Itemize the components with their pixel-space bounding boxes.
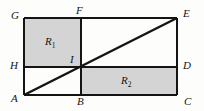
region-label-r2: R2 — [121, 75, 131, 90]
vertex-label-A: A — [11, 93, 18, 104]
region-label-r1: R1 — [45, 36, 55, 51]
vertex-label-B: B — [77, 96, 84, 107]
region-label-r2-base: R — [121, 74, 128, 86]
vertex-label-I: I — [70, 54, 74, 65]
region-label-r2-subscript: 2 — [128, 80, 132, 89]
region-label-r1-subscript: 1 — [52, 41, 56, 50]
vertex-label-F: F — [76, 5, 83, 16]
figure-canvas — [0, 0, 204, 111]
vertex-label-G: G — [11, 10, 19, 21]
geometry-figure: G F E H I D A B C R1 R2 — [0, 0, 204, 111]
vertex-label-C: C — [184, 96, 191, 107]
vertex-label-E: E — [183, 8, 190, 19]
region-label-r1-base: R — [45, 35, 52, 47]
vertex-label-H: H — [10, 60, 18, 71]
vertex-label-D: D — [183, 60, 191, 71]
